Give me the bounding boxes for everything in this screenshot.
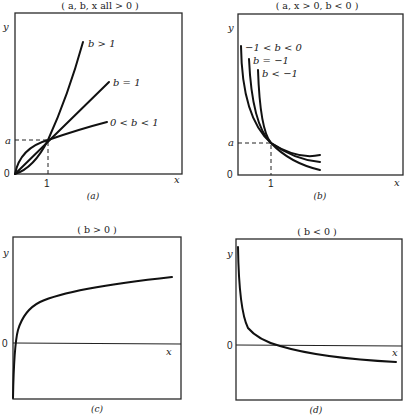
panel-a-one-tick: 1 — [44, 178, 50, 189]
panel-b-origin-label: 0 — [227, 169, 233, 180]
panel-d-title: ( b < 0 ) — [297, 226, 337, 237]
panel-b-label-b-eq-neg1: b = −1 — [253, 55, 289, 66]
panel-b-label-b-between: −1 < b < 0 — [245, 42, 303, 53]
panel-c-curve — [13, 277, 172, 398]
panel-b-caption: (b) — [314, 191, 327, 201]
panel-a-a-tick: a — [5, 135, 11, 146]
panel-c-zero-label: 0 — [2, 338, 8, 349]
panel-b-label-b-lt-neg1: b < −1 — [262, 68, 298, 79]
function-graphs-figure: ( a, b, x all > 0 ) y x 0 a 1 b > 1 b = … — [0, 0, 405, 415]
panel-b-a-tick: a — [228, 137, 234, 148]
panel-c-frame — [13, 237, 181, 399]
panel-b-one-tick: 1 — [268, 178, 274, 189]
panel-c-y-label: y — [2, 247, 9, 258]
panel-a-curve-b-eq-1 — [15, 82, 109, 174]
panel-a-y-label: y — [2, 21, 9, 32]
panel-b-y-label: y — [227, 22, 234, 33]
panel-b-curve-b-lt-neg1 — [258, 70, 320, 170]
panel-d-y-label: y — [226, 248, 233, 259]
panel-c: ( b > 0 ) y 0 x (c) — [2, 224, 181, 414]
panel-a-label-b-eq-1: b = 1 — [113, 77, 141, 88]
panel-b-x-label: x — [394, 177, 400, 188]
panel-b-title: ( a, x > 0, b < 0 ) — [276, 0, 359, 11]
panel-c-zero-line — [13, 343, 181, 344]
panel-c-caption: (c) — [91, 404, 104, 414]
panel-d-zero-label: 0 — [227, 340, 233, 351]
panel-a-caption: (a) — [87, 191, 100, 201]
panel-d: ( b < 0 ) y 0 x (d) — [226, 226, 402, 415]
panel-a: ( a, b, x all > 0 ) y x 0 a 1 b > 1 b = … — [2, 0, 182, 201]
panel-c-x-label: x — [166, 346, 172, 357]
panel-b: ( a, x > 0, b < 0 ) y x 0 a 1 −1 < b < 0… — [227, 0, 403, 201]
panel-d-caption: (d) — [310, 405, 323, 415]
panel-a-title: ( a, b, x all > 0 ) — [61, 0, 138, 11]
panel-b-guide-lines — [238, 143, 271, 175]
panel-c-title: ( b > 0 ) — [77, 224, 117, 235]
panel-d-zero-line — [236, 345, 402, 346]
panel-d-frame — [236, 239, 402, 400]
panel-a-label-b-gt-1: b > 1 — [88, 38, 116, 49]
panel-a-label-b-lt-1: 0 < b < 1 — [110, 117, 159, 128]
panel-a-origin-label: 0 — [4, 168, 10, 179]
panel-b-frame — [238, 14, 403, 175]
panel-d-x-label: x — [392, 347, 398, 358]
panel-a-x-label: x — [174, 174, 180, 185]
